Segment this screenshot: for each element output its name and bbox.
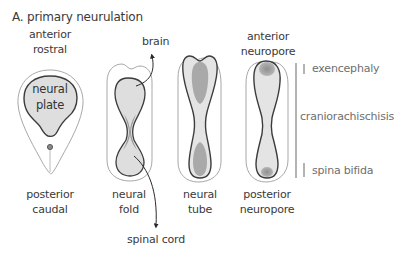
label-plate: plate (24, 98, 76, 112)
label-craniorachischisis: craniorachischisis (300, 110, 394, 124)
neural-tube-embryo (178, 56, 221, 182)
label-neural-fold-1: neural (104, 188, 154, 202)
figure-title: A. primary neurulation (12, 10, 143, 24)
label-anterior-2: anterior (238, 30, 298, 44)
label-rostral: rostral (22, 43, 78, 57)
label-posterior-2: posterior (237, 188, 297, 202)
neuropore-embryo (246, 61, 288, 182)
label-spina-bifida: spina bifida (312, 164, 373, 178)
label-neural-fold-2: fold (104, 203, 154, 217)
label-neural-tube-2: tube (175, 203, 225, 217)
label-neuropore-anterior: neuropore (238, 45, 298, 59)
posterior-neuropore-spot (261, 167, 273, 177)
label-neuropore-posterior: neuropore (237, 203, 297, 217)
label-neural: neural (24, 82, 76, 96)
label-exencephaly: exencephaly (312, 62, 379, 76)
label-neural-tube-1: neural (175, 188, 225, 202)
anterior-neuropore-spot (259, 62, 275, 76)
label-anterior: anterior (22, 28, 78, 42)
label-brain: brain (142, 35, 169, 49)
label-caudal: caudal (18, 203, 82, 217)
label-posterior: posterior (18, 188, 82, 202)
label-spinal-cord: spinal cord (127, 233, 185, 247)
node-dot (47, 144, 52, 149)
